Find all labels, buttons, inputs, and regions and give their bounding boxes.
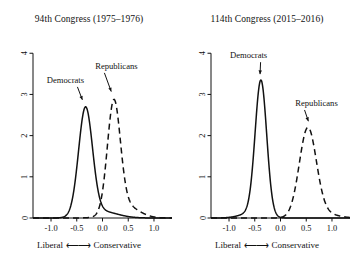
double-arrow-icon: ⟵⟶ xyxy=(65,240,91,250)
density-curve-republicans xyxy=(33,99,172,218)
axis-caption-right-word: Conservative xyxy=(272,240,320,250)
plot-area-left: 01234-1.0-0.50.00.51.0DemocratsRepublica… xyxy=(0,0,178,269)
figure-density-plots: 94th Congress (1975–1976) 01234-1.0-0.50… xyxy=(0,0,356,269)
y-axis-tick-label: 0 xyxy=(21,216,30,220)
annotation-arrow-head xyxy=(79,96,82,100)
y-axis-tick-label: 4 xyxy=(199,50,208,55)
y-axis-tick-label: 2 xyxy=(199,134,208,138)
axis-caption-left: Liberal ⟵⟶ Conservative xyxy=(0,240,178,250)
x-axis-tick-label: -1.0 xyxy=(44,224,57,233)
axis-caption-left-word: Liberal xyxy=(215,240,241,250)
y-axis-tick-label: 2 xyxy=(21,134,30,138)
annotation-arrow-head xyxy=(259,70,262,74)
axis-caption-left-word: Liberal xyxy=(37,240,63,250)
annotation-arrow-head xyxy=(108,87,111,91)
y-axis-tick-label: 4 xyxy=(21,50,30,55)
x-axis-tick-label: 1.0 xyxy=(149,224,159,233)
x-axis-tick-label: 0.0 xyxy=(97,224,107,233)
axis-caption-right-word: Conservative xyxy=(94,240,142,250)
x-axis-tick-label: -0.5 xyxy=(248,224,261,233)
x-axis-tick-label: 1.0 xyxy=(327,224,337,233)
panel-114th-congress: 114th Congress (2015–2016) 01234-1.0-0.5… xyxy=(178,0,356,269)
density-curve-democrats xyxy=(33,107,172,218)
panel-94th-congress: 94th Congress (1975–1976) 01234-1.0-0.50… xyxy=(0,0,178,269)
series-annotation-label: Republicans xyxy=(95,61,138,71)
series-annotation-label: Republicans xyxy=(295,98,338,108)
annotation-arrow-head xyxy=(306,117,309,121)
double-arrow-icon: ⟵⟶ xyxy=(243,240,269,250)
y-axis-tick-label: 1 xyxy=(21,175,30,179)
y-axis-tick-label: 3 xyxy=(21,92,30,96)
x-axis-tick-label: 0.0 xyxy=(275,224,285,233)
y-axis-tick-label: 0 xyxy=(199,216,208,220)
x-axis-tick-label: -1.0 xyxy=(222,224,235,233)
series-annotation-label: Democrats xyxy=(230,50,268,60)
x-axis-tick-label: 0.5 xyxy=(301,224,311,233)
plot-area-right: 01234-1.0-0.50.00.51.0DemocratsRepublica… xyxy=(178,0,356,269)
density-curve-republicans xyxy=(211,127,350,218)
y-axis-tick-label: 1 xyxy=(199,175,208,179)
x-axis-tick-label: -0.5 xyxy=(70,224,83,233)
series-annotation-label: Democrats xyxy=(47,75,85,85)
axis-caption-right: Liberal ⟵⟶ Conservative xyxy=(178,240,356,250)
x-axis-tick-label: 0.5 xyxy=(123,224,133,233)
y-axis-tick-label: 3 xyxy=(199,92,208,96)
